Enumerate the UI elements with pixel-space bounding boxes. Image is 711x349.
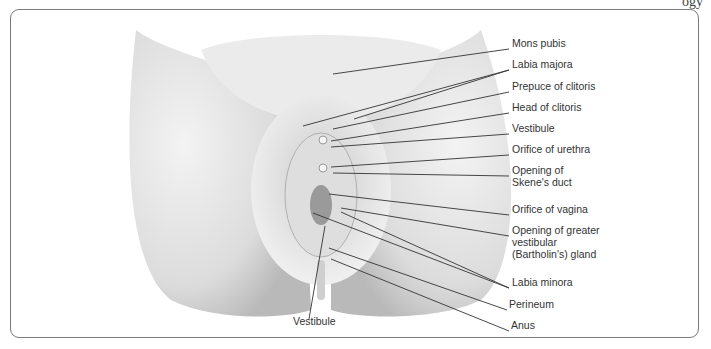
figure-frame: Mons pubisLabia majoraPrepuce of clitori… (10, 9, 699, 338)
label-line: Skene's duct (512, 176, 572, 188)
label-vestibule-right: Vestibule (512, 122, 555, 134)
label-line: Opening of (512, 164, 572, 176)
label-line: Opening of greater (512, 224, 600, 236)
label-opening-of-bartholins-gland: Opening of greatervestibular(Bartholin's… (512, 224, 600, 260)
label-line: vestibular (512, 236, 600, 248)
label-mons-pubis: Mons pubis (512, 37, 566, 49)
label-anus: Anus (511, 319, 535, 331)
leader-line (341, 212, 509, 288)
leader-lines (11, 10, 699, 338)
label-line: (Bartholin's) gland (512, 248, 600, 260)
leader-line (329, 248, 507, 310)
leader-line (331, 113, 509, 141)
leader-line (331, 155, 509, 167)
leader-line (333, 173, 509, 176)
label-labia-majora: Labia majora (512, 58, 573, 70)
leader-line (331, 259, 509, 331)
label-vestibule-bottom: Vestibule (293, 315, 336, 327)
label-orifice-of-vagina: Orifice of vagina (512, 203, 588, 215)
leader-line (329, 194, 509, 215)
leader-line (331, 134, 509, 147)
leader-line (309, 226, 325, 319)
label-perineum: Perineum (509, 298, 554, 310)
label-head-of-clitoris: Head of clitoris (512, 101, 581, 113)
label-orifice-of-urethra: Orifice of urethra (512, 143, 590, 155)
leader-line (333, 49, 509, 74)
label-prepuce-of-clitoris: Prepuce of clitoris (512, 80, 595, 92)
label-opening-of-skenes-duct: Opening ofSkene's duct (512, 164, 572, 188)
label-labia-minora: Labia minora (512, 276, 573, 288)
leader-line (354, 70, 509, 119)
